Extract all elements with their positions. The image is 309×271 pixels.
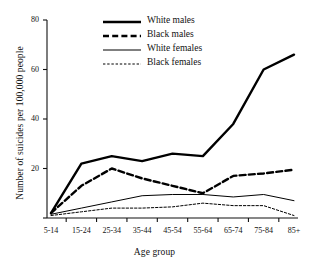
series-line — [51, 203, 294, 215]
legend-item-label: Black females — [147, 57, 201, 67]
y-tick-label: 20 — [17, 164, 39, 173]
series-line — [51, 55, 294, 213]
y-axis-ticks — [43, 20, 47, 218]
y-tick-label: 40 — [17, 114, 39, 123]
x-tick-label: 85+ — [272, 226, 309, 235]
legend-item-label: White females — [147, 43, 202, 53]
legend-line-samples — [103, 22, 141, 64]
y-axis-title: Number of suicides per 100,000 people — [15, 23, 25, 223]
y-tick-label: 80 — [17, 15, 39, 24]
y-tick-label: 60 — [17, 65, 39, 74]
legend-item-label: White males — [147, 15, 195, 25]
data-series-layer — [51, 55, 294, 216]
legend-item-label: Black males — [147, 29, 194, 39]
x-axis-title: Age group — [0, 247, 309, 257]
series-line — [51, 194, 294, 214]
suicide-rate-line-chart: Number of suicides per 100,000 people Ag… — [0, 0, 309, 271]
x-axis-ticks — [66, 218, 279, 222]
